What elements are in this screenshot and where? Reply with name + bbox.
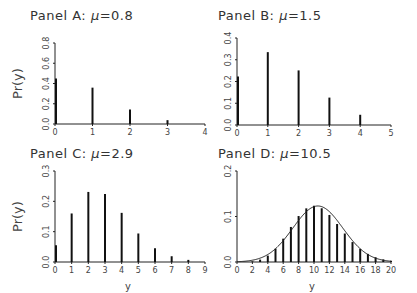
x-tick-label: 16 [355,266,365,275]
x-tick-label: 1 [69,266,74,275]
y-tick-label: 0.0 [224,256,233,269]
y-tick-label: 0.3 [224,53,233,66]
panel-title: Panel B: μ=1.5 [218,8,322,23]
y-tick-label: 0.2 [42,195,51,208]
x-axis-label: y [125,281,131,292]
x-tick-label: 2 [250,266,255,275]
x-tick-label: 3 [102,266,107,275]
x-tick-label: 4 [119,266,124,275]
y-tick-label: 0.8 [42,37,51,50]
x-tick-label: 8 [296,266,301,275]
x-tick-label: 5 [136,266,141,275]
x-tick-label: 14 [340,266,350,275]
x-tick-label: 4 [358,129,363,138]
x-tick-label: 20 [386,266,396,275]
x-tick-label: 12 [324,266,334,275]
x-tick-label: 0 [234,266,239,275]
x-tick-label: 2 [296,129,301,138]
panel-d: Panel D: μ=10.50.00.10.20246810121416182… [218,146,396,292]
x-tick-label: 1 [90,128,95,137]
poisson-panels-figure: Panel A: μ=0.80.00.20.40.60.801234Pr(y)P… [0,0,417,293]
y-tick-label: 0.4 [42,77,51,90]
x-tick-label: 8 [186,266,191,275]
y-tick-label: 0.6 [42,57,51,70]
y-tick-label: 0.1 [224,97,233,110]
y-tick-label: 0.3 [42,165,51,178]
y-axis-label: Pr(y) [10,201,25,232]
x-tick-label: 5 [388,129,393,138]
x-tick-label: 3 [327,129,332,138]
x-tick-label: 7 [169,266,174,275]
panel-title: Panel A: μ=0.8 [30,8,133,23]
y-tick-label: 0.1 [42,225,51,238]
panel-title: Panel C: μ=2.9 [30,146,134,161]
x-tick-label: 0 [52,266,57,275]
x-tick-label: 18 [371,266,381,275]
y-tick-label: 0.2 [224,165,233,178]
x-axis-label: y [309,281,315,292]
x-tick-label: 0 [52,128,57,137]
x-tick-label: 2 [86,266,91,275]
x-tick-label: 6 [281,266,286,275]
x-tick-label: 4 [202,128,207,137]
y-tick-label: 0.4 [224,32,233,45]
x-tick-label: 2 [127,128,132,137]
y-axis-label: Pr(y) [10,68,25,99]
y-tick-label: 0.2 [42,97,51,110]
x-tick-label: 3 [165,128,170,137]
x-tick-label: 10 [309,266,319,275]
y-tick-label: 0.1 [224,210,233,223]
x-tick-label: 0 [234,129,239,138]
y-tick-label: 0.0 [42,256,51,269]
x-tick-label: 1 [265,129,270,138]
x-tick-label: 9 [202,266,207,275]
x-tick-label: 6 [152,266,157,275]
x-tick-label: 4 [265,266,270,275]
y-tick-label: 0.0 [224,119,233,132]
panel-c: Panel C: μ=2.90.00.10.20.30123456789Pr(y… [10,146,208,292]
y-tick-label: 0.2 [224,75,233,88]
panel-title: Panel D: μ=10.5 [218,146,331,161]
y-tick-label: 0.0 [42,118,51,131]
panel-a: Panel A: μ=0.80.00.20.40.60.801234Pr(y) [10,8,208,137]
panel-b: Panel B: μ=1.50.00.10.20.30.4012345 [218,8,394,138]
